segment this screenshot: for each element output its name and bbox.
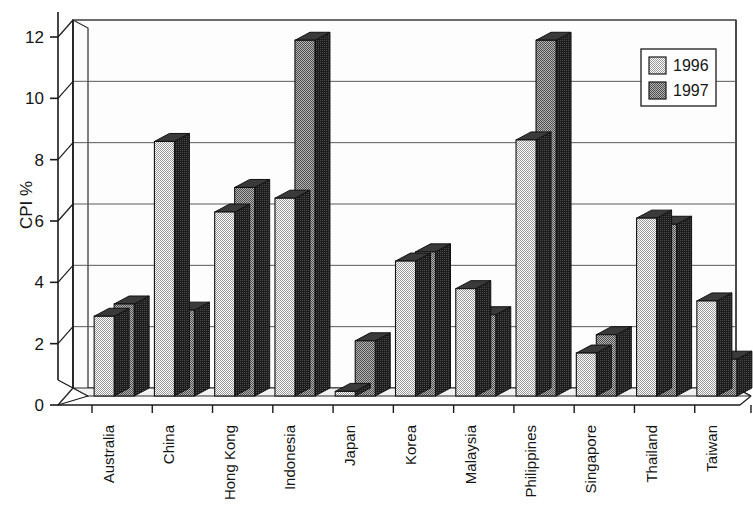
chart-canvas: 024681012 AustraliaChinaHong KongIndones… xyxy=(0,0,753,510)
category-label-australia: Australia xyxy=(100,424,117,483)
bar-front-face xyxy=(275,198,295,396)
bar-front-face xyxy=(637,218,657,396)
y-tick-label-10: 10 xyxy=(25,89,44,108)
legend-swatch-1997 xyxy=(649,82,666,99)
bar xyxy=(576,345,611,396)
bar-front-face xyxy=(215,212,235,396)
cpi-bar-chart: 024681012 AustraliaChinaHong KongIndones… xyxy=(0,0,753,510)
bar-side-face xyxy=(717,293,732,396)
bar-side-face xyxy=(616,327,631,396)
bar-side-face xyxy=(375,333,390,396)
bar-side-face xyxy=(556,32,571,396)
bar-side-face xyxy=(174,133,189,396)
bar-side-face xyxy=(134,296,149,396)
category-label-singapore: Singapore xyxy=(582,425,599,493)
bar-front-face xyxy=(335,391,355,396)
category-label-japan: Japan xyxy=(341,425,358,466)
bar xyxy=(396,253,431,396)
category-label-thailand: Thailand xyxy=(643,425,660,483)
y-tick-label-8: 8 xyxy=(35,151,44,170)
category-label-korea: Korea xyxy=(402,424,419,465)
bar-front-face xyxy=(94,316,114,396)
bar-side-face xyxy=(235,204,250,396)
bar-front-face xyxy=(516,140,536,396)
bar-side-face xyxy=(194,302,209,396)
bar-side-face xyxy=(496,307,511,396)
bar-side-face xyxy=(255,179,270,396)
bar xyxy=(154,133,189,396)
bar-front-face xyxy=(697,301,717,396)
bar-side-face xyxy=(436,244,451,396)
bar-front-face xyxy=(576,353,596,396)
bar-front-face xyxy=(396,261,416,396)
bar xyxy=(215,204,250,396)
y-tick-label-0: 0 xyxy=(35,396,44,415)
legend: 1996 1997 xyxy=(641,49,716,106)
bar-front-face xyxy=(154,141,174,396)
bar-side-face xyxy=(476,281,491,396)
bar xyxy=(275,190,310,396)
bar-side-face xyxy=(416,253,431,396)
bar-side-face xyxy=(114,308,129,396)
bar-side-face xyxy=(657,210,672,396)
category-label-malaysia: Malaysia xyxy=(462,424,479,484)
bar-side-face xyxy=(295,190,310,396)
bar xyxy=(94,308,129,396)
y-tick-label-4: 4 xyxy=(35,273,44,292)
bar-side-face xyxy=(677,216,692,396)
y-tick-label-12: 12 xyxy=(25,28,44,47)
bar-front-face xyxy=(456,289,476,396)
bar xyxy=(697,293,732,396)
bar-side-face xyxy=(596,345,611,396)
category-label-taiwan: Taiwan xyxy=(703,425,720,472)
bar xyxy=(516,132,551,396)
category-label-hong-kong: Hong Kong xyxy=(221,425,238,500)
plot-left-wall xyxy=(73,20,88,396)
category-label-china: China xyxy=(160,424,177,464)
bar-side-face xyxy=(536,132,551,396)
legend-label-1996: 1996 xyxy=(673,57,709,74)
y-axis-title: CPI % xyxy=(17,181,36,229)
bar-side-face xyxy=(315,32,330,396)
category-label-philippines: Philippines xyxy=(522,425,539,498)
legend-label-1997: 1997 xyxy=(673,82,709,99)
y-tick-label-2: 2 xyxy=(35,335,44,354)
bar xyxy=(456,281,491,396)
legend-swatch-1996 xyxy=(649,57,666,74)
category-label-indonesia: Indonesia xyxy=(281,424,298,490)
bar xyxy=(637,210,672,396)
